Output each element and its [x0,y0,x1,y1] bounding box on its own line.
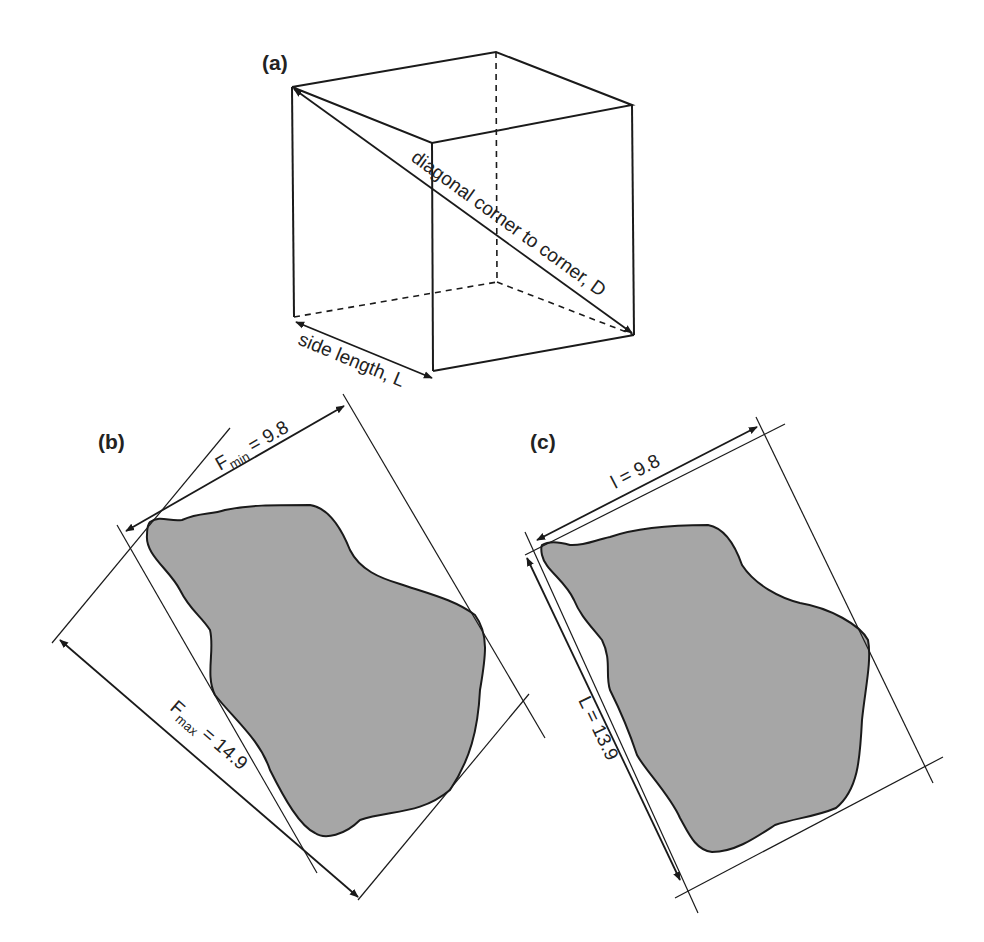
diagonal-label: diagonal corner to corner, D [408,146,610,300]
cube-top-face [292,52,632,143]
diagonal-arrow [294,89,632,333]
panel-b-label: (b) [98,430,125,453]
panel-c-label: (c) [530,430,556,453]
width-label: l = 9.8 [607,450,663,493]
fmin-label: Fmin = 9.8 [212,416,294,478]
panel-c: (c) l = 9.8 L = 13.9 [525,417,943,913]
panel-b: (b) Fmin = 9.8 Fmax = 14.9 [52,394,545,900]
width-arrow [537,427,757,540]
panel-a-label: (a) [262,51,288,74]
side-length-label: side length, L [295,328,407,391]
figure-canvas: (a) diagonal corner to corner, D side le… [0,0,984,942]
particle-c [541,525,869,852]
panel-a: (a) diagonal corner to corner, D side le… [262,51,634,391]
particle-b [147,505,485,836]
